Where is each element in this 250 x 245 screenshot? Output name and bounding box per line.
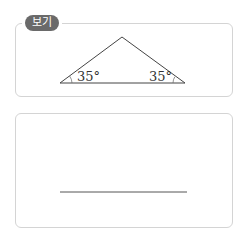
answer-line-figure bbox=[0, 0, 250, 245]
answer-text bbox=[60, 175, 187, 191]
